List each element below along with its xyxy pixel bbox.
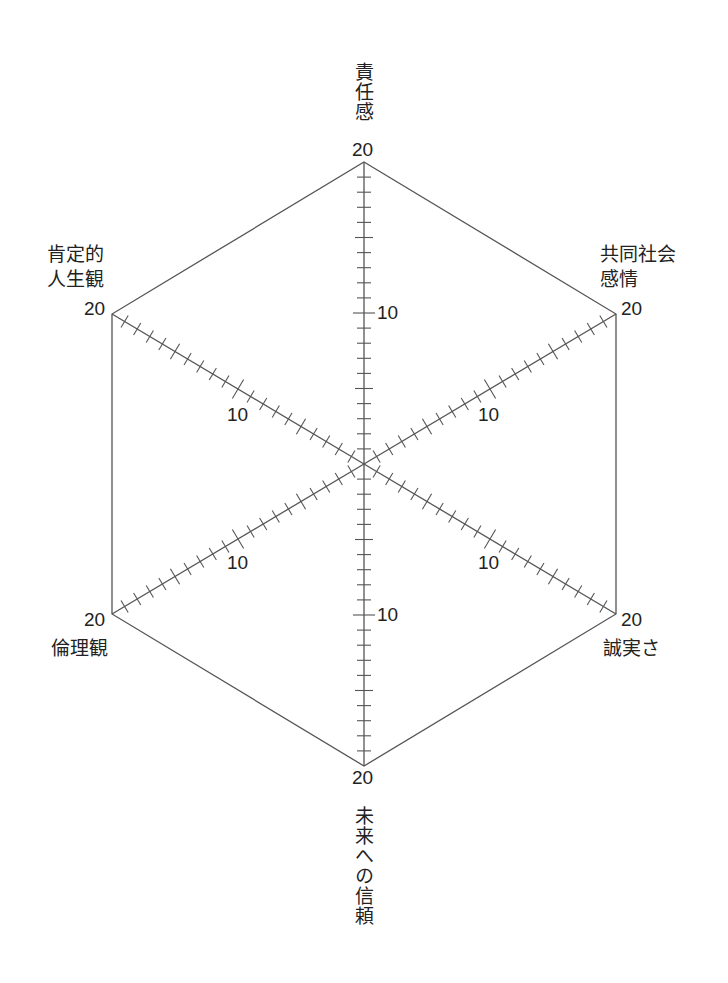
axis-tick [247, 390, 254, 402]
axis-tick [499, 540, 506, 552]
tick-label-20-lower-right: 20 [621, 609, 642, 631]
tick-label-10-upper-left: 10 [227, 404, 248, 426]
axis-tick [449, 510, 456, 522]
axis-tick [600, 315, 607, 327]
axis-label-responsibility: 責任感 [352, 62, 374, 122]
axis-tick [436, 413, 443, 425]
axis-tick [422, 419, 431, 434]
axis-tick [587, 323, 594, 335]
axis-tick [170, 569, 179, 584]
tick-label-10-lower-right: 10 [478, 552, 499, 574]
axis-label-sincerity: 誠実さ [603, 636, 660, 661]
axis-tick [512, 368, 519, 380]
tick-label-10-lower-left: 10 [227, 552, 248, 574]
axis-tick [436, 503, 443, 515]
axis-tick [600, 600, 607, 612]
axis-tick [348, 450, 355, 462]
axis-tick [121, 600, 128, 612]
tick-label-10-upper-right: 10 [478, 404, 499, 426]
axis-label-ethics: 倫理観 [51, 636, 108, 661]
tick-label-20-bottom: 20 [352, 767, 373, 789]
axis-tick [296, 494, 305, 509]
axis-tick [461, 518, 468, 530]
axis-tick [562, 338, 569, 350]
axis-tick [146, 330, 153, 342]
axis-tick [398, 435, 405, 447]
axis-tick [348, 465, 355, 477]
axis-tick [197, 555, 204, 567]
axis-tick [587, 593, 594, 605]
axis-tick [373, 465, 380, 477]
axis-tick [310, 428, 317, 440]
axis-label-social-feeling-line2: 感情 [600, 267, 676, 292]
axis-tick [222, 540, 229, 552]
axis-label-positive-outlook-line2: 人生観 [47, 267, 104, 292]
axis-tick [197, 360, 204, 372]
axis-tick [537, 563, 544, 575]
tick-label-20-upper-right: 20 [621, 298, 642, 320]
axis-tick [575, 330, 582, 342]
axis-tick [499, 375, 506, 387]
axis-tick [184, 353, 191, 365]
axis-tick [260, 518, 267, 530]
axis-tick [159, 578, 166, 590]
axis-tick [184, 563, 191, 575]
axis-tick [386, 473, 393, 485]
axis-tick [170, 344, 179, 359]
axis-tick [310, 488, 317, 500]
axis-tick [474, 525, 481, 537]
axis-tick [247, 525, 254, 537]
axis-tick [335, 443, 342, 455]
axis-tick [484, 530, 495, 549]
axis-tick [524, 555, 531, 567]
axis-tick [422, 494, 431, 509]
axis-tick [575, 585, 582, 597]
axis-tick [159, 338, 166, 350]
axis-tick [296, 419, 305, 434]
axis-tick [484, 380, 495, 399]
axis-tick [411, 488, 418, 500]
axis-tick [285, 413, 292, 425]
axis-tick [146, 585, 153, 597]
axis-tick [272, 510, 279, 522]
tick-label-10-bottom: 10 [377, 604, 398, 626]
axis-label-social-feeling-line1: 共同社会 [600, 242, 676, 267]
axis-tick [134, 323, 141, 335]
axis-tick [209, 548, 216, 560]
axis-tick [232, 380, 243, 399]
axis-tick [134, 593, 141, 605]
axis-label-positive-outlook: 肯定的 人生観 [47, 242, 104, 292]
axis-tick [272, 405, 279, 417]
axis-label-positive-outlook-line1: 肯定的 [47, 242, 104, 267]
axis-tick [461, 398, 468, 410]
axis-tick [323, 480, 330, 492]
axis-tick [285, 503, 292, 515]
axis-tick [537, 353, 544, 365]
tick-label-20-lower-left: 20 [84, 609, 105, 631]
axis-tick [386, 443, 393, 455]
axis-tick [209, 368, 216, 380]
axis-tick [524, 360, 531, 372]
axis-tick [548, 569, 557, 584]
axis-tick [121, 315, 128, 327]
axis-label-social-feeling: 共同社会 感情 [600, 242, 676, 292]
radar-axes [112, 162, 616, 766]
axis-tick [222, 375, 229, 387]
tick-label-10-top: 10 [377, 302, 398, 324]
axis-tick [323, 435, 330, 447]
axis-tick [474, 390, 481, 402]
axis-tick [335, 473, 342, 485]
tick-label-20-top: 20 [352, 139, 373, 161]
axis-tick [411, 428, 418, 440]
axis-tick [398, 480, 405, 492]
axis-tick [449, 405, 456, 417]
axis-tick [373, 450, 380, 462]
axis-tick [260, 398, 267, 410]
axis-tick [232, 530, 243, 549]
axis-label-trust-future: 未来への信頼 [352, 806, 374, 926]
tick-label-20-upper-left: 20 [84, 298, 105, 320]
axis-tick [562, 578, 569, 590]
axis-tick [548, 344, 557, 359]
axis-tick [512, 548, 519, 560]
